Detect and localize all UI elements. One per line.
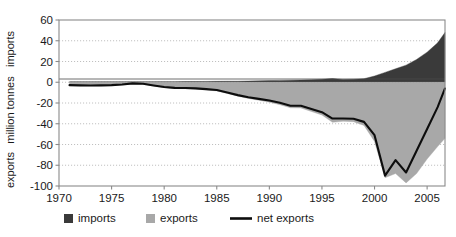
y-axis-region-label-exports: exports — [4, 151, 16, 188]
stacked-area-series — [70, 32, 445, 182]
area-series-exports — [70, 82, 445, 183]
legend-swatch-exports — [146, 214, 155, 223]
y-tick-label: -40 — [36, 118, 53, 130]
x-tick-label: 2005 — [414, 192, 440, 204]
chart-figure: 6040200-20-40-60-80-100 1970197519801985… — [0, 0, 456, 237]
legend-label-imports: imports — [78, 212, 116, 224]
x-tick-label: 1980 — [151, 192, 177, 204]
x-tick-label: 1970 — [46, 192, 72, 204]
y-tick-label: -20 — [36, 97, 53, 109]
legend-label-net exports: net exports — [257, 212, 314, 224]
x-tick-label: 1985 — [204, 192, 230, 204]
y-axis-tick-labels: 6040200-20-40-60-80-100 — [30, 14, 59, 192]
y-tick-label: 0 — [47, 76, 53, 88]
x-axis-tick-labels: 19701975198019851990199520002005 — [46, 186, 440, 204]
legend-swatch-imports — [64, 214, 73, 223]
x-tick-label: 1995 — [309, 192, 335, 204]
y-axis-title: million tonnes — [4, 76, 16, 144]
y-tick-label: 20 — [40, 56, 53, 68]
chart-legend: importsexportsnet exports — [64, 212, 314, 224]
y-axis-region-label-imports: imports — [4, 30, 16, 67]
y-tick-label: -100 — [30, 180, 53, 192]
y-tick-label: -60 — [36, 139, 53, 151]
x-tick-label: 1990 — [257, 192, 283, 204]
imports-exports-area-chart: 6040200-20-40-60-80-100 1970197519801985… — [0, 0, 456, 237]
x-tick-label: 2000 — [362, 192, 388, 204]
y-tick-label: -80 — [36, 159, 53, 171]
legend-label-exports: exports — [160, 212, 198, 224]
x-tick-label: 1975 — [99, 192, 125, 204]
y-tick-label: 60 — [40, 14, 53, 26]
area-series-imports — [70, 32, 445, 82]
y-tick-label: 40 — [40, 35, 53, 47]
